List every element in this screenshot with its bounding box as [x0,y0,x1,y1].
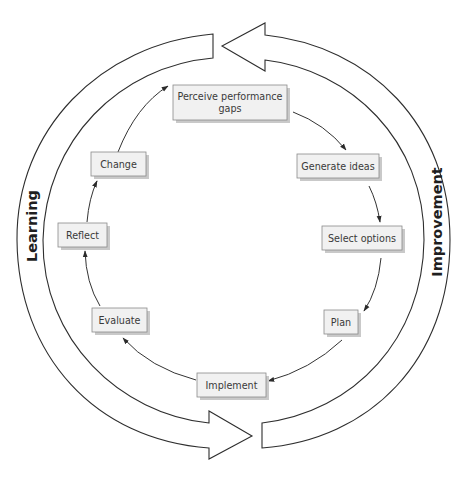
step-plan: Plan [324,310,361,337]
step-label: Change [100,159,137,170]
step-label: Perceive performance [178,91,283,102]
step-label: Generate ideas [301,161,374,172]
learning-improvement-cycle-diagram: Learning Improvement Perceive performanc… [0,0,467,477]
step-label: Implement [206,380,258,391]
step-select-options: Select options [322,226,405,253]
step-generate-ideas: Generate ideas [297,154,382,181]
step-label: gaps [218,103,241,114]
step-evaluate: Evaluate [92,308,150,335]
connector-plan-implement [268,340,342,381]
step-implement: Implement [197,373,269,400]
step-label: Reflect [66,230,99,241]
connector-select-plan [364,258,381,311]
connector-evaluate-reflect [85,251,100,306]
step-label: Select options [328,233,396,244]
step-label: Plan [331,317,351,328]
improvement-label: Improvement [429,167,445,277]
step-label: Evaluate [99,315,141,326]
step-perceive-performance-gaps: Perceive performance gaps [173,85,290,123]
step-change: Change [91,152,149,179]
connector-perceive-generate [293,112,346,150]
learning-label: Learning [24,190,40,262]
connector-implement-evaluate [123,338,196,380]
step-reflect: Reflect [58,223,110,250]
connector-reflect-change [87,181,97,222]
connector-change-perceive [118,86,168,152]
connector-generate-select [369,186,380,222]
